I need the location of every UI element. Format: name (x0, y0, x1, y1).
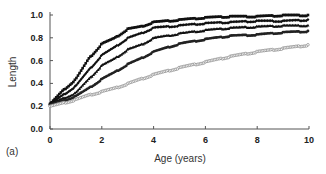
data-point (80, 69, 83, 72)
data-point (307, 43, 310, 46)
series-curve-3 (49, 24, 310, 105)
data-point (78, 72, 81, 75)
data-point (306, 24, 309, 27)
y-axis-title: Length (7, 57, 18, 88)
data-point (98, 45, 101, 48)
series-group (49, 14, 310, 108)
data-point (72, 81, 75, 84)
data-point (83, 64, 86, 67)
y-tick-label: 1.0 (30, 10, 43, 20)
x-tick-label: 6 (203, 135, 208, 145)
x-tick-label: 8 (255, 135, 260, 145)
series-line (50, 45, 308, 106)
data-point (81, 67, 84, 70)
y-tick-label: 0.6 (30, 56, 43, 66)
y-tick-label: 0.0 (30, 124, 43, 134)
data-point (84, 62, 87, 65)
x-tick-label: 4 (151, 135, 156, 145)
data-point (307, 30, 310, 33)
series-line (50, 25, 308, 104)
x-tick-label: 10 (304, 135, 314, 145)
x-axis-title: Age (years) (154, 153, 206, 164)
data-point (77, 74, 80, 77)
x-tick-label: 2 (99, 135, 104, 145)
y-tick-label: 0.2 (30, 101, 43, 111)
y-tick-label: 0.4 (30, 78, 43, 88)
data-point (75, 77, 78, 80)
data-point (307, 14, 310, 17)
x-tick-label: 0 (47, 135, 52, 145)
line-chart: 02468100.00.20.40.60.81.0 Age (years) Le… (0, 0, 326, 174)
panel-label: (a) (6, 146, 18, 157)
axes: 02468100.00.20.40.60.81.0 (30, 10, 314, 145)
data-point (86, 59, 89, 62)
series-curve-5 (49, 43, 310, 107)
y-tick-label: 0.8 (30, 33, 43, 43)
series-curve-1 (49, 14, 310, 106)
